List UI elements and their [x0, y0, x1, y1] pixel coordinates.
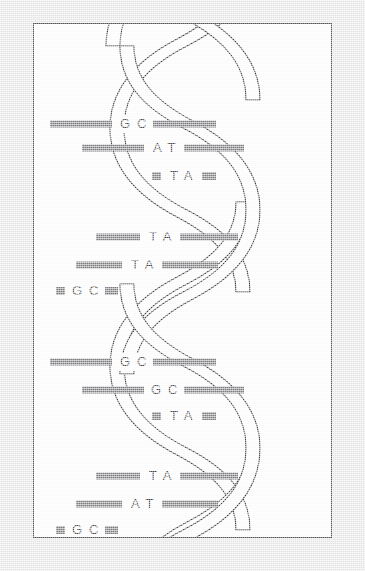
base-pair-label: A T [131, 496, 155, 511]
base-pair-rung: G C [56, 521, 118, 537]
rung-bar-right [180, 473, 238, 480]
base-pair-rung: A T [76, 495, 218, 513]
base-pair-rung: G C [56, 282, 118, 300]
figure-frame: G CA TT AT AT AG CG CG CT AT AA TG C [33, 23, 332, 538]
rung-stub-right [202, 412, 216, 420]
base-pair-label: G C [72, 522, 100, 537]
rung-bar-right [184, 387, 244, 394]
rung-bar-right [153, 359, 216, 366]
base-pair-label: G C [120, 354, 148, 369]
base-pair-label: T A [170, 168, 194, 183]
helix-strands [106, 24, 260, 537]
base-pair-label: T A [149, 229, 173, 244]
rung-bar-left [50, 359, 112, 366]
rung-bar-left [76, 262, 122, 269]
strand-back [110, 24, 250, 537]
base-pair-rung: T A [152, 407, 216, 425]
rung-stub-left [56, 287, 65, 295]
base-pair-label: T A [149, 468, 173, 483]
rung-bar-left [50, 121, 112, 128]
rung-stub-right [202, 172, 216, 180]
rung-stub-left [56, 526, 65, 534]
rung-bar-right [162, 501, 218, 508]
rung-bar-left [76, 501, 122, 508]
rung-bar-right [153, 121, 216, 128]
rung-stub-left [152, 172, 161, 180]
dna-double-helix-illustration: G CA TT AT AT AG CG CG CT AT AA TG C [34, 24, 331, 537]
rung-bar-left [82, 387, 144, 394]
rung-stub-right [105, 526, 118, 534]
rung-bar-right [184, 145, 244, 152]
base-pair-rung: T A [152, 167, 216, 185]
rung-bar-left [96, 473, 140, 480]
base-pair-label: T A [170, 408, 194, 423]
base-pair-label: A T [153, 140, 177, 155]
page-root: G CA TT AT AT AG CG CG CT AT AA TG C DNA… [0, 0, 365, 571]
rung-bar-right [162, 262, 218, 269]
base-pair-label: T A [131, 257, 155, 272]
base-pair-label: G C [72, 283, 100, 298]
rung-stub-left [152, 412, 161, 420]
rung-bar-left [96, 234, 140, 241]
base-pair-label: G C [151, 382, 179, 397]
rung-bar-right [180, 234, 238, 241]
rung-bar-left [82, 145, 144, 152]
rung-stub-right [105, 287, 118, 295]
base-pair-label: G C [120, 116, 148, 131]
